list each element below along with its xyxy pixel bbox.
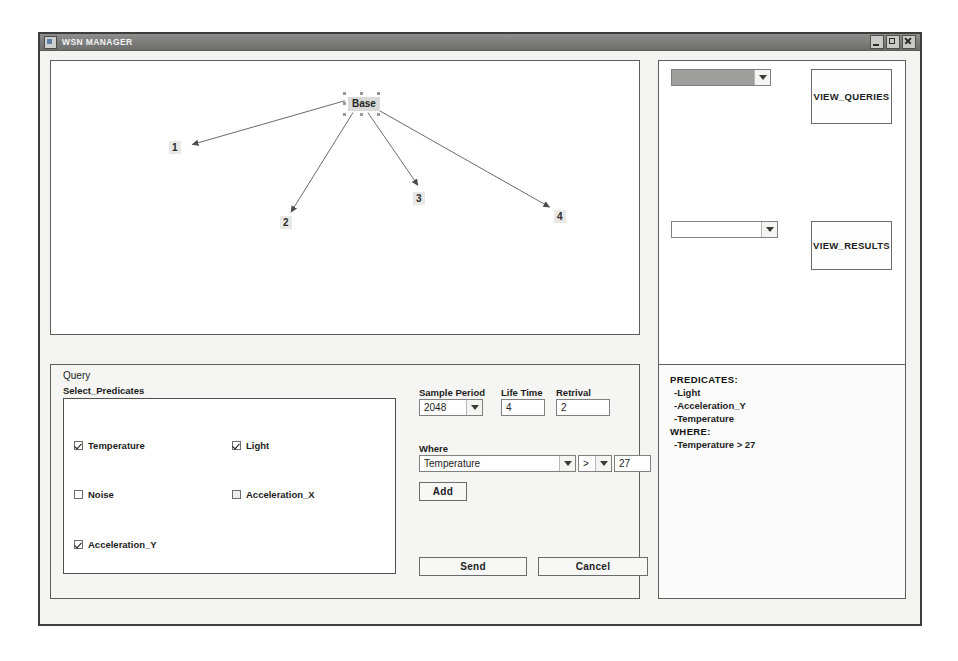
retrival-label: Retrival [556, 387, 591, 398]
query-panel: Query Select_Predicates Temperature Ligh… [50, 364, 640, 599]
checkbox-temperature[interactable]: Temperature [74, 440, 145, 451]
application-window: WSN MANAGER [38, 32, 922, 626]
results-dropdown[interactable] [671, 221, 778, 238]
chevron-down-icon[interactable] [595, 456, 611, 471]
view-queries-button[interactable]: VIEW_QUERIES [811, 69, 892, 124]
where-label: Where [419, 443, 448, 454]
screen: WSN MANAGER [0, 0, 958, 661]
predicates-checkbox-group: Temperature Light Noise Acceleration_X [63, 398, 396, 574]
life-time-input[interactable]: 4 [501, 399, 545, 416]
send-button[interactable]: Send [419, 557, 527, 576]
checkbox-icon[interactable] [74, 540, 83, 549]
topology-panel: Base 1 2 3 4 [50, 60, 640, 335]
window-client-area: Base 1 2 3 4 Back to networks list VIEW_… [40, 51, 920, 624]
predicates-summary-panel: PREDICATES: -Light -Acceleration_Y -Temp… [658, 364, 906, 599]
selection-handle[interactable] [360, 113, 363, 116]
retrival-input[interactable]: 2 [556, 399, 610, 416]
network-node-3[interactable]: 3 [413, 192, 425, 205]
checkbox-noise[interactable]: Noise [74, 489, 114, 500]
where-field-dropdown[interactable]: Temperature [419, 455, 576, 472]
close-icon[interactable] [902, 35, 916, 49]
predicate-item: -Acceleration_Y [670, 399, 897, 412]
selection-handle[interactable] [377, 113, 380, 116]
checkbox-acceleration-x[interactable]: Acceleration_X [232, 489, 315, 500]
selection-handle[interactable] [377, 92, 380, 95]
chevron-down-icon[interactable] [466, 400, 482, 415]
network-node-2[interactable]: 2 [280, 216, 292, 229]
where-header: WHERE: [670, 425, 897, 438]
query-group-title: Query [63, 370, 90, 381]
network-node-1[interactable]: 1 [169, 141, 181, 154]
chevron-down-icon[interactable] [761, 222, 777, 237]
checkbox-label: Acceleration_Y [88, 539, 157, 550]
sample-period-value: 2048 [420, 402, 466, 413]
predicates-summary: PREDICATES: -Light -Acceleration_Y -Temp… [670, 373, 897, 451]
select-predicates-title: Select_Predicates [63, 385, 144, 396]
life-time-label: Life Time [501, 387, 543, 398]
checkbox-label: Noise [88, 489, 114, 500]
add-button[interactable]: Add [419, 482, 467, 501]
base-node-group[interactable]: Base [343, 92, 381, 116]
checkbox-label: Acceleration_X [246, 489, 315, 500]
checkbox-acceleration-y[interactable]: Acceleration_Y [74, 539, 157, 550]
where-item: -Temperature > 27 [670, 438, 897, 451]
chevron-down-icon[interactable] [559, 456, 575, 471]
where-operator-dropdown[interactable]: > [578, 455, 612, 472]
chevron-down-icon[interactable] [754, 70, 770, 85]
selection-handle[interactable] [343, 92, 346, 95]
where-value-input[interactable]: 27 [614, 455, 651, 472]
maximize-icon[interactable] [886, 35, 900, 49]
view-results-button[interactable]: VIEW_RESULTS [811, 221, 892, 270]
queries-dropdown-value [672, 70, 754, 85]
where-operator-value: > [579, 458, 595, 469]
network-node-4[interactable]: 4 [554, 210, 566, 223]
checkbox-light[interactable]: Light [232, 440, 269, 451]
selection-handle[interactable] [360, 92, 363, 95]
selection-handle[interactable] [343, 102, 346, 105]
checkbox-label: Temperature [88, 440, 145, 451]
checkbox-icon[interactable] [74, 441, 83, 450]
predicate-item: -Temperature [670, 412, 897, 425]
app-icon [44, 36, 57, 49]
queries-results-panel: VIEW_QUERIES VIEW_RESULTS [658, 60, 906, 401]
base-node-label[interactable]: Base [348, 97, 380, 111]
predicate-item: -Light [670, 386, 897, 399]
checkbox-icon[interactable] [74, 490, 83, 499]
title-bar: WSN MANAGER [40, 34, 920, 51]
sample-period-dropdown[interactable]: 2048 [419, 399, 483, 416]
minimize-icon[interactable] [870, 35, 884, 49]
checkbox-icon[interactable] [232, 490, 241, 499]
window-controls [870, 35, 918, 49]
checkbox-label: Light [246, 440, 269, 451]
window-title: WSN MANAGER [62, 37, 133, 47]
queries-dropdown[interactable] [671, 69, 771, 86]
predicates-header: PREDICATES: [670, 373, 897, 386]
checkbox-icon[interactable] [232, 441, 241, 450]
selection-handle[interactable] [343, 113, 346, 116]
sample-period-label: Sample Period [419, 387, 485, 398]
cancel-button[interactable]: Cancel [538, 557, 648, 576]
where-field-value: Temperature [420, 458, 559, 469]
